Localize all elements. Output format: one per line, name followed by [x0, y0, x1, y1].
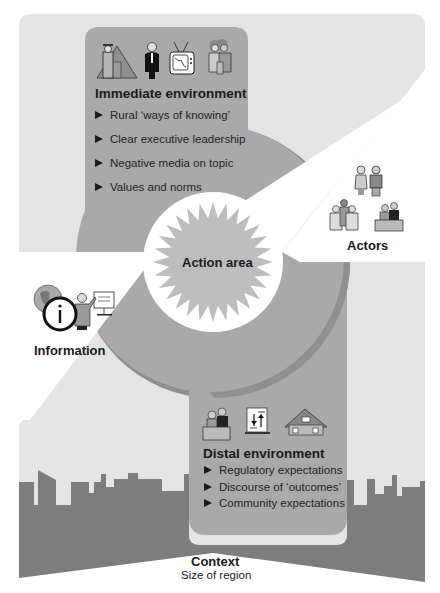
family-icon	[209, 39, 231, 74]
distal-environment-list: Regulatory expectations Discourse of ‘ou…	[202, 463, 345, 513]
list-item: Values and norms	[93, 180, 246, 204]
immediate-environment-title: Immediate environment	[95, 86, 247, 101]
balance-document-icon	[245, 408, 270, 434]
context-title: Context	[191, 554, 239, 569]
info-icon	[44, 298, 76, 330]
list-item: Community expectations	[202, 496, 345, 513]
information-label: Information	[34, 343, 106, 358]
immediate-environment-list: Rural ‘ways of knowing’ Clear executive …	[93, 108, 246, 204]
context-subtitle: Size of region	[181, 569, 251, 581]
list-item: Clear executive leadership	[93, 132, 246, 156]
distal-environment-title: Distal environment	[203, 446, 325, 461]
action-area-label: Action area	[182, 255, 253, 270]
list-item: Rural ‘ways of knowing’	[93, 108, 246, 132]
list-item: Discourse of ‘outcomes’	[202, 480, 345, 497]
list-item: Negative media on topic	[93, 156, 246, 180]
diagram-canvas: Immediate environment Rural ‘ways of kno…	[0, 0, 440, 593]
actors-label: Actors	[347, 238, 388, 253]
list-item: Regulatory expectations	[202, 463, 345, 480]
